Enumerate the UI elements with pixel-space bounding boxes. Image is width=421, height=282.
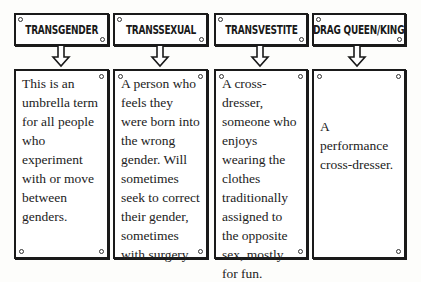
term-definition-box: A person who feels they were born into t…: [113, 69, 208, 259]
arrow-down-icon: [150, 46, 170, 68]
term-definition: This is an umbrella term for all people …: [22, 74, 103, 226]
term-title: TRANSVESTITE: [225, 23, 297, 37]
term-definition-box: A cross-dresser, someone who enjoys wear…: [214, 69, 308, 259]
term-definition: A performance cross-dresser.: [320, 117, 400, 174]
term-definition: A cross-dresser, someone who enjoys wear…: [222, 74, 302, 282]
term-title: TRANSSEXUAL: [125, 23, 195, 37]
term-header-transvestite: TRANSVESTITE: [214, 13, 308, 46]
term-header-drag-queen-king: DRAG QUEEN/KING: [312, 13, 406, 46]
term-definition: A person who feels they were born into t…: [121, 74, 202, 264]
arrow-down-icon: [250, 46, 270, 68]
arrow-down-icon: [51, 46, 71, 68]
term-definition-box: This is an umbrella term for all people …: [14, 69, 109, 259]
term-header-transsexual: TRANSSEXUAL: [113, 13, 208, 46]
arrow-down-icon: [347, 46, 367, 68]
term-title: DRAG QUEEN/KING: [313, 23, 404, 37]
term-definition-box: A performance cross-dresser.: [312, 69, 406, 259]
term-header-transgender: TRANSGENDER: [14, 13, 109, 46]
term-title: TRANSGENDER: [25, 23, 98, 37]
